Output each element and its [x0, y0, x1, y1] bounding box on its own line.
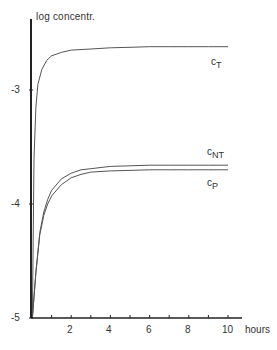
series-label-cnt: cNT	[207, 147, 224, 160]
x-tick-label-10: 10	[222, 325, 233, 335]
x-tick-label-8: 8	[185, 325, 191, 335]
series-label-ct-sub: T	[216, 60, 222, 70]
curve-c-p	[32, 170, 228, 318]
x-tick-label-4: 4	[106, 325, 112, 335]
x-tick-label-2: 2	[67, 325, 73, 335]
series-label-cp: cP	[207, 178, 218, 191]
curve-c-t	[32, 47, 228, 318]
series-label-ct: cT	[211, 57, 222, 70]
series-label-cnt-sub: NT	[212, 150, 224, 160]
x-tick-label-6: 6	[146, 325, 152, 335]
y-tick-label-minus4: -4	[11, 199, 20, 209]
series-label-cp-sub: P	[212, 181, 218, 191]
curve-c-nt	[32, 165, 228, 318]
chart-plot-area	[0, 0, 277, 350]
y-tick-label-minus5: -5	[11, 313, 20, 323]
y-tick-label-minus3: -3	[11, 85, 20, 95]
x-axis-unit-label: hours	[245, 325, 270, 335]
y-axis-label: log concentr.	[36, 12, 95, 22]
curves-group	[32, 47, 228, 318]
axis-ticks	[29, 90, 228, 318]
